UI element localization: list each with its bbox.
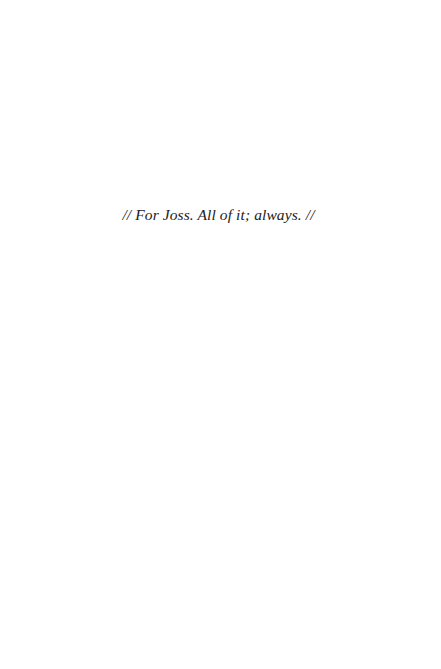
dedication-text: // For Joss. All of it; always. // bbox=[0, 206, 437, 224]
book-page: // For Joss. All of it; always. // bbox=[0, 0, 441, 669]
